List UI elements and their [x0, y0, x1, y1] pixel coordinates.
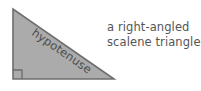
caption-line-2: scalene triangle: [107, 35, 199, 50]
caption-line-1: a right-angled: [107, 20, 199, 35]
caption-block: a right-angled scalene triangle: [107, 20, 199, 50]
triangle-figure: hypotenuse a right-angled scalene triang…: [0, 0, 201, 91]
